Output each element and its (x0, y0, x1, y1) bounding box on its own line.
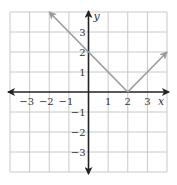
y-tick-label: −2 (71, 127, 86, 138)
axis-labels: xy (93, 10, 165, 108)
y-tick-label: 3 (79, 27, 85, 38)
x-tick-label: 3 (144, 96, 150, 107)
x-tick-label: 1 (105, 96, 111, 107)
axes (8, 11, 169, 174)
coordinate-plane: −3−2−1123321−1−2−3 xy (0, 0, 177, 185)
x-tick-label: 2 (125, 96, 131, 107)
x-tick-label: −2 (39, 96, 54, 107)
x-axis-label: x (158, 95, 165, 108)
y-axis-label: y (93, 10, 101, 23)
x-tick-label: −1 (59, 96, 74, 107)
y-tick-label: −1 (71, 107, 86, 118)
x-tick-label: −3 (19, 96, 34, 107)
y-tick-label: 1 (79, 67, 85, 78)
y-tick-label: 2 (79, 47, 85, 58)
y-tick-label: −3 (71, 147, 86, 158)
